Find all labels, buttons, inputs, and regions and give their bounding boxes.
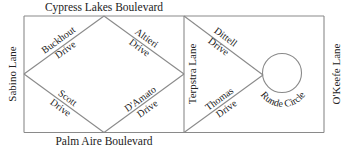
- cypress-lakes-boulevard-label: Cypress Lakes Boulevard: [45, 1, 163, 14]
- runde-circle-road: [263, 54, 302, 93]
- damato-drive-label: D'Amato Drive: [122, 84, 165, 124]
- street-map: Cypress Lakes Boulevard Palm Aire Boulev…: [0, 0, 350, 151]
- sabino-lane-label: Sabino Lane: [6, 46, 18, 101]
- terpstra-lane-label: Terpstra Lane: [186, 44, 198, 105]
- palm-aire-boulevard-label: Palm Aire Boulevard: [55, 135, 152, 147]
- buckhout-drive-label: Buckhout Drive: [39, 24, 84, 66]
- okeefe-lane-label: O'Keefe Lane: [330, 43, 342, 104]
- thomas-drive-label: Thomas Drive: [203, 85, 243, 123]
- scott-drive-label: Scott Drive: [48, 87, 80, 119]
- altieri-drive-label: Altieri Drive: [126, 26, 161, 60]
